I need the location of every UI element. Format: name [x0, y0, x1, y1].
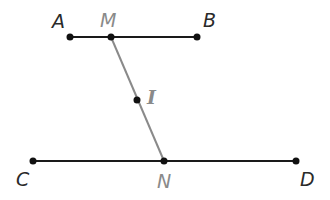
- label-m: M: [100, 11, 116, 30]
- label-a: A: [52, 12, 65, 31]
- point-i: [134, 97, 141, 104]
- point-n: [161, 158, 168, 165]
- point-m: [108, 34, 115, 41]
- point-c: [30, 158, 37, 165]
- point-b: [194, 34, 201, 41]
- label-b: B: [203, 11, 216, 30]
- label-i: I: [147, 88, 156, 107]
- point-a: [67, 34, 74, 41]
- point-d: [293, 158, 300, 165]
- label-n: N: [157, 172, 171, 191]
- label-c: C: [16, 170, 29, 189]
- label-d: D: [300, 170, 315, 189]
